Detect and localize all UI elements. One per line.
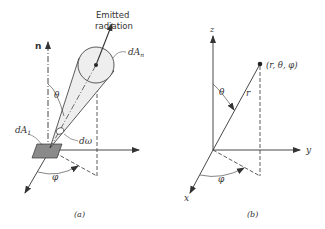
emitted-label-line2: radiation: [95, 21, 133, 31]
theta-label-a: θ: [54, 90, 60, 100]
point-label: (r, θ, φ): [266, 60, 298, 70]
dAn-leader: [113, 52, 126, 58]
panel-b: z y x θ r φ (r, θ, φ) (b): [184, 25, 312, 219]
projection-dashed-b: [213, 150, 260, 176]
domega-leader: [64, 134, 78, 141]
z-label: z: [209, 25, 215, 34]
domega-label: dω: [79, 136, 93, 146]
emitted-label-line1: Emitted: [96, 10, 129, 20]
caption-b: (b): [247, 210, 258, 219]
r-label: r: [246, 88, 251, 98]
phi-label-b: φ: [218, 174, 225, 184]
x-label: x: [184, 193, 189, 203]
diagram-canvas: n Emitted radiation dAn θ dω dA1 φ (a) z…: [0, 0, 325, 229]
panel-a: n Emitted radiation dAn θ dω dA1 φ (a): [15, 10, 144, 219]
x-axis: [190, 150, 213, 193]
y-label: y: [305, 145, 312, 155]
caption-a: (a): [74, 210, 85, 219]
r-vector: [213, 64, 260, 150]
dA1-patch: [32, 144, 62, 158]
normal-label: n: [35, 41, 41, 51]
theta-label-b: θ: [219, 87, 225, 97]
phi-label-a: φ: [52, 172, 59, 182]
dA1-label: dA1: [15, 125, 31, 136]
dAn-label: dAn: [128, 47, 144, 58]
point-dot: [258, 62, 263, 67]
